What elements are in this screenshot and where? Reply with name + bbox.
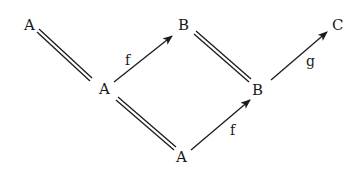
label-f-bottom: f xyxy=(230,122,237,138)
node-b2: B xyxy=(252,81,263,99)
node-c: C xyxy=(332,16,343,34)
equality-b1-b2 xyxy=(194,31,251,82)
arrow-f-a2-b1 xyxy=(114,36,172,82)
arrow-f-a3-b2 xyxy=(191,100,250,150)
label-f-top: f xyxy=(125,52,132,68)
equality-a2-a3 xyxy=(116,97,176,150)
node-a2: A xyxy=(98,80,110,98)
node-a1: A xyxy=(23,16,35,34)
commutative-diagram: A A A B B C f f g xyxy=(0,0,360,173)
equality-a1-a2 xyxy=(37,29,92,81)
label-g: g xyxy=(306,53,315,69)
arrow-g-b2-c xyxy=(271,32,327,80)
node-a3: A xyxy=(175,148,187,166)
node-b1: B xyxy=(178,16,189,34)
